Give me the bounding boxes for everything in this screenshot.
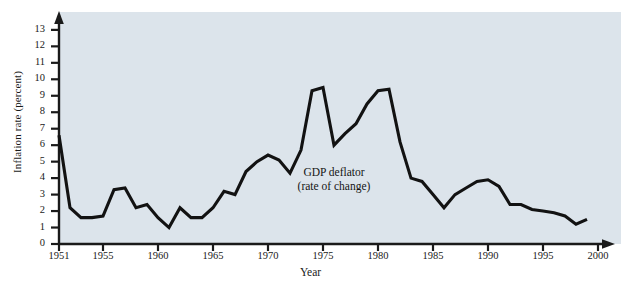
x-axis-tick-label: 1965 xyxy=(191,250,235,261)
x-axis-tick-label: 1960 xyxy=(136,250,180,261)
x-axis-title: Year xyxy=(0,266,621,278)
y-axis-title: Inflation rate (percent) xyxy=(11,47,23,197)
y-axis-tick-label: 3 xyxy=(23,188,45,199)
y-axis-tick-label: 7 xyxy=(23,122,45,133)
y-axis-tick-label: 11 xyxy=(23,56,45,67)
y-axis-tick-label: 13 xyxy=(23,23,45,34)
gdp-deflator-line-series xyxy=(59,88,587,228)
y-axis-tick-label: 6 xyxy=(23,138,45,149)
x-axis-tick-label: 1975 xyxy=(301,250,345,261)
y-axis-group xyxy=(51,11,64,244)
y-axis-tick-label: 8 xyxy=(23,105,45,116)
y-axis-arrowhead xyxy=(54,11,64,24)
x-axis-tick-label: 1990 xyxy=(466,250,510,261)
y-axis-tick-label: 2 xyxy=(23,204,45,215)
y-axis-tick-label: 0 xyxy=(23,237,45,248)
y-axis-tick-label: 5 xyxy=(23,155,45,166)
x-axis-arrowhead xyxy=(602,239,615,249)
x-axis-tick-label: 1955 xyxy=(81,250,125,261)
y-axis-tick-label: 9 xyxy=(23,89,45,100)
y-axis-tick-label: 10 xyxy=(23,72,45,83)
x-axis-tick-label: 1980 xyxy=(356,250,400,261)
series-annotation-line-2: (rate of change) xyxy=(274,179,394,193)
series-annotation: GDP deflator (rate of change) xyxy=(274,165,394,193)
y-axis-tick-label: 4 xyxy=(23,171,45,182)
y-axis-tick-label: 1 xyxy=(23,221,45,232)
series-annotation-line-1: GDP deflator xyxy=(274,165,394,179)
x-axis-tick-label: 1995 xyxy=(521,250,565,261)
x-axis-tick-label: 1970 xyxy=(246,250,290,261)
x-axis-tick-label: 1951 xyxy=(37,250,81,261)
x-axis-tick-label: 1985 xyxy=(411,250,455,261)
chart-canvas xyxy=(0,0,621,284)
x-axis-tick-label: 2000 xyxy=(576,250,620,261)
y-axis-tick-label: 12 xyxy=(23,39,45,50)
inflation-rate-chart-figure: 012345678910111213 195119551960196519701… xyxy=(0,0,621,284)
